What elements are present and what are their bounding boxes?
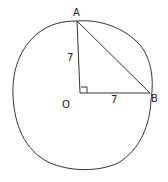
label-side-ob: 7	[111, 94, 117, 105]
geometry-diagram: A B O 7 7	[0, 0, 168, 182]
label-a: A	[73, 7, 80, 18]
circle	[13, 21, 152, 170]
label-side-oa: 7	[67, 52, 73, 63]
label-b: B	[151, 93, 158, 104]
segment-oa	[77, 21, 80, 93]
right-angle-marker	[81, 87, 87, 93]
label-o: O	[62, 99, 70, 110]
segment-ab	[77, 21, 150, 93]
